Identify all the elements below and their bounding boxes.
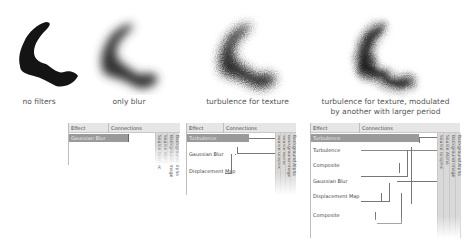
connection-wire	[231, 154, 232, 173]
shape-only-blur	[84, 10, 174, 95]
connection-wire	[389, 183, 390, 201]
input-columns: Source Graphic Source Alpha Background I…	[437, 133, 461, 238]
column-connections[interactable]: Connections	[362, 123, 393, 133]
column-effect[interactable]: Effect	[71, 123, 85, 133]
caption-turbulence-modulated-line2: by another with larger period	[318, 107, 453, 117]
shape-turbulence-modulated	[330, 10, 430, 98]
connection-wire	[235, 154, 236, 155]
filter-panel-blur: Effect Connections Gaussian Blur Source …	[68, 123, 180, 165]
connection-wire	[128, 134, 129, 142]
connection-wire	[361, 203, 412, 204]
effect-row-composite[interactable]: Composite	[311, 161, 340, 169]
column-divider	[359, 123, 360, 133]
effect-row-turbulence[interactable]: Turbulence	[311, 134, 419, 142]
effect-row-composite[interactable]: Composite	[311, 211, 340, 219]
effect-row-gaussian-blur[interactable]: Gaussian Blur	[187, 150, 224, 158]
connection-wire	[237, 153, 279, 154]
input-background-alpha: Background Alpha	[291, 135, 297, 176]
input-background-alpha: Background Alpha	[174, 135, 180, 176]
column-divider	[223, 123, 224, 133]
connection-wire	[399, 163, 400, 173]
connection-wire	[381, 193, 382, 201]
shape-turbulence	[200, 8, 295, 98]
connection-wire	[419, 137, 420, 143]
connection-wire	[361, 150, 441, 151]
effect-row-displacement-map[interactable]: Displacement Map	[311, 192, 360, 200]
filter-panel-modulated: Effect Connections Turbulence Turbulence…	[310, 123, 460, 238]
column-effect[interactable]: Effect	[313, 123, 327, 133]
connection-wire	[401, 193, 402, 223]
column-effect[interactable]: Effect	[189, 123, 203, 133]
input-columns: Source Graphic Source Alpha Background I…	[275, 133, 297, 195]
effect-row-gaussian-blur[interactable]: Gaussian Blur	[311, 177, 348, 185]
connection-wire	[225, 173, 232, 174]
input-columns: Source Graphic Source Alpha Background I…	[155, 133, 181, 165]
connection-wire	[411, 147, 412, 204]
panel-header: Effect Connections	[311, 123, 460, 133]
connection-wire	[397, 181, 441, 182]
shape-no-filters	[8, 18, 78, 90]
caption-only-blur: only blur	[104, 97, 154, 107]
connection-wire	[375, 212, 376, 220]
caption-no-filters: no filters	[14, 97, 64, 107]
caption-turbulence-modulated-line1: turbulence for texture, modulated	[318, 97, 453, 107]
panel-header: Effect Connections	[69, 123, 180, 133]
connection-wire	[407, 150, 408, 176]
column-divider	[108, 123, 109, 133]
effect-row-gaussian-blur[interactable]: Gaussian Blur	[69, 134, 129, 142]
connection-wire	[361, 176, 408, 177]
effect-row-turbulence[interactable]: Turbulence	[311, 146, 340, 154]
panel-header: Effect Connections	[187, 123, 296, 133]
effect-row-turbulence[interactable]: Turbulence	[187, 134, 249, 142]
connection-wire	[377, 223, 402, 224]
column-connections[interactable]: Connections	[111, 123, 142, 133]
connection-wire	[361, 201, 390, 202]
caption-turbulence: turbulence for texture	[200, 97, 295, 107]
column-connections[interactable]: Connections	[226, 123, 257, 133]
input-background-alpha: Background Alpha	[456, 135, 462, 176]
filter-panel-turbulence: Effect Connections Turbulence Gaussian B…	[186, 123, 296, 195]
